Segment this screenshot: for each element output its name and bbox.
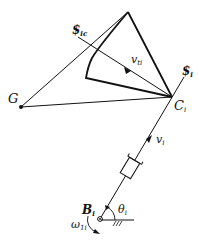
label-b-i: Bi: [81, 203, 95, 218]
kinematic-diagram: $ic $i vti G Ci vi Bi θi ω1i: [0, 0, 199, 242]
label-g: G: [8, 91, 18, 106]
label-c-i: Ci: [174, 98, 186, 114]
label-screw-i: $i: [182, 64, 193, 79]
prismatic-joint-icon: [119, 154, 144, 180]
edge-G-Ci: [21, 97, 172, 107]
screw-axis-i: [100, 77, 184, 219]
label-v-i: vi: [156, 133, 164, 147]
omega-arrow-icon: [93, 229, 100, 234]
g-point-icon: [19, 105, 23, 109]
label-v-ti: vti: [131, 53, 142, 67]
inner-body-outline: [86, 12, 172, 97]
screw-axis-ic: [78, 37, 172, 97]
label-theta-i: θi: [118, 203, 127, 217]
label-screw-ic: $ic: [72, 23, 88, 38]
revolute-joint-icon: [98, 217, 134, 226]
label-omega-1i: ω1i: [71, 218, 87, 232]
theta-angle-arc: [107, 207, 115, 220]
